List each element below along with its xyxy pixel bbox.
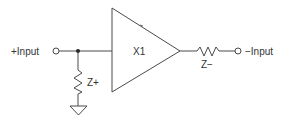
circuit-diagram: +Input Z+ X1 Z− −Input — [0, 0, 289, 123]
minus-input-label: −Input — [245, 46, 273, 57]
z-minus-label: Z− — [201, 59, 213, 70]
amplifier-x1-icon — [112, 8, 180, 92]
plus-input-label: +Input — [11, 46, 39, 57]
z-minus-resistor-icon — [197, 47, 219, 56]
ground-icon — [70, 106, 87, 115]
z-plus-label: Z+ — [87, 77, 99, 88]
minus-input-terminal-icon — [235, 48, 241, 54]
amplifier-label: X1 — [133, 46, 146, 57]
plus-input-terminal-icon — [53, 48, 59, 54]
z-plus-resistor-icon — [74, 70, 82, 94]
